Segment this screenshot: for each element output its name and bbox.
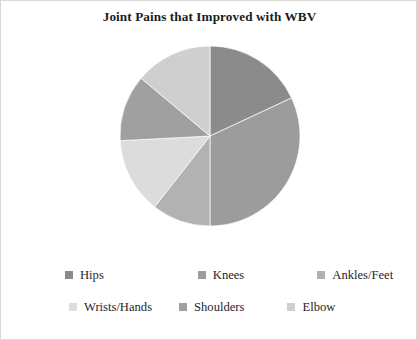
legend-item-wrists-hands[interactable]: Wrists/Hands — [69, 301, 152, 314]
legend-item-knees[interactable]: Knees — [198, 269, 244, 282]
pie-chart-svg — [119, 45, 301, 227]
legend-item-elbow[interactable]: Elbow — [287, 301, 335, 314]
legend-swatch-icon-elbow — [287, 303, 295, 311]
legend-swatch-icon-wrists-hands — [69, 303, 77, 311]
legend-label-wrists-hands: Wrists/Hands — [84, 301, 152, 314]
legend-swatch-icon-shoulders — [179, 303, 187, 311]
legend-item-shoulders[interactable]: Shoulders — [179, 301, 244, 314]
legend-swatch-icon-ankles-feet — [317, 271, 325, 279]
legend-item-ankles-feet[interactable]: Ankles/Feet — [317, 269, 393, 282]
legend-swatch-icon-hips — [65, 271, 73, 279]
legend-swatch-icon-knees — [198, 271, 206, 279]
legend-label-elbow: Elbow — [302, 301, 335, 314]
chart-legend: HipsKneesAnkles/FeetWrists/HandsShoulder… — [1, 259, 417, 323]
chart-frame: Joint Pains that Improved with WBV HipsK… — [0, 0, 417, 340]
legend-label-shoulders: Shoulders — [194, 301, 244, 314]
pie-chart — [119, 45, 301, 227]
chart-title: Joint Pains that Improved with WBV — [1, 9, 417, 25]
legend-item-hips[interactable]: Hips — [65, 269, 104, 282]
legend-label-ankles-feet: Ankles/Feet — [332, 269, 393, 282]
legend-label-hips: Hips — [80, 269, 104, 282]
legend-row: HipsKneesAnkles/Feet — [1, 259, 417, 291]
legend-row: Wrists/HandsShouldersElbow — [1, 291, 417, 323]
legend-label-knees: Knees — [213, 269, 244, 282]
pie-slice-group — [120, 46, 300, 226]
